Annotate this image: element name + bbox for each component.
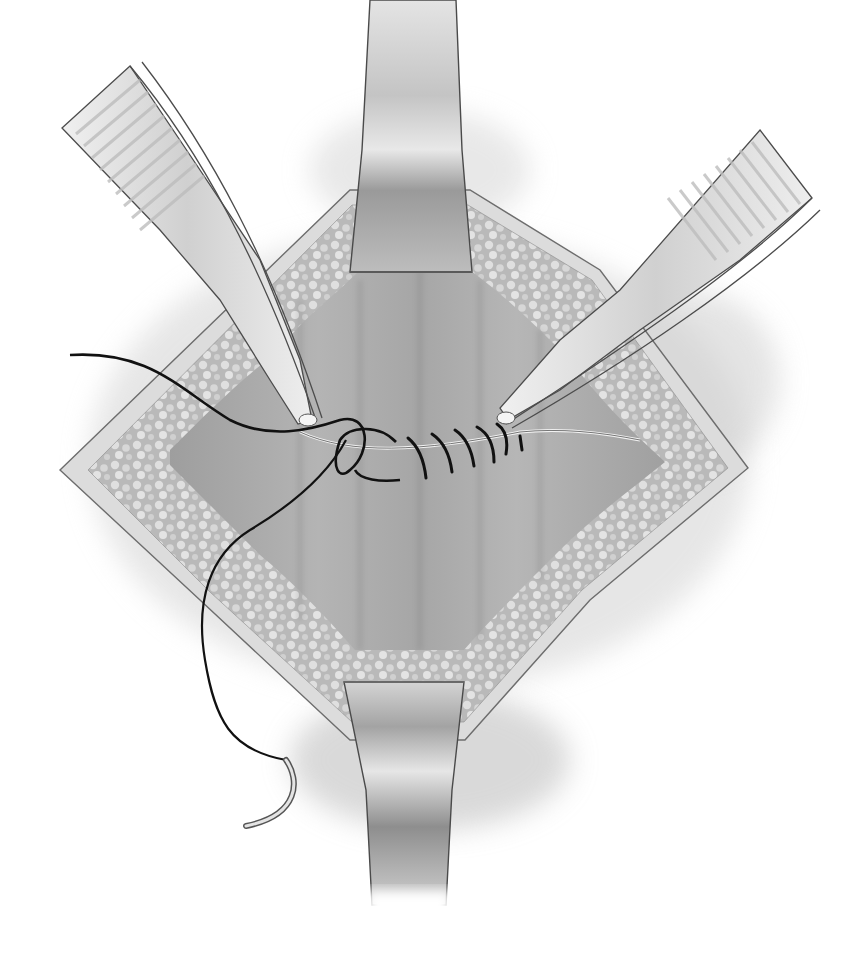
illustration-canvas — [0, 0, 864, 956]
needle — [246, 760, 294, 826]
retractor-top — [350, 0, 472, 272]
surgical-illustration — [0, 0, 864, 956]
